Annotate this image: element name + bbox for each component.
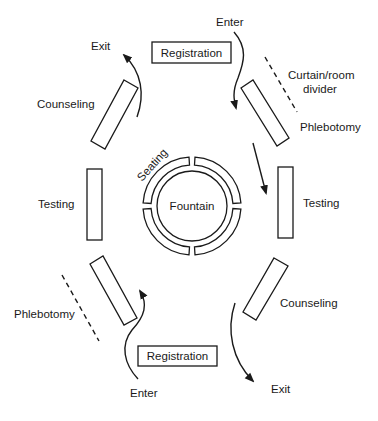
registration-bottom-label: Registration bbox=[147, 350, 208, 362]
phlebotomy-right-box bbox=[241, 80, 289, 146]
registration-top-label: Registration bbox=[161, 47, 222, 59]
curtain-divider-right bbox=[265, 57, 297, 112]
counseling-right-label: Counseling bbox=[280, 297, 338, 309]
enter-bottom-label: Enter bbox=[130, 387, 158, 399]
clinic-flow-diagram: Registration Enter Exit Counseling Phleb… bbox=[0, 0, 378, 421]
testing-left-label: Testing bbox=[38, 198, 74, 210]
exit-bottom-arrow bbox=[231, 303, 253, 381]
flow-arrow-to-testing bbox=[253, 143, 266, 193]
divider-label-line2: divider bbox=[303, 83, 337, 95]
testing-right-box bbox=[278, 167, 293, 238]
testing-right-label: Testing bbox=[303, 197, 339, 209]
enter-top-arrow bbox=[234, 32, 244, 108]
counseling-left-label: Counseling bbox=[37, 98, 95, 110]
testing-left-box bbox=[87, 169, 102, 240]
seating-segment bbox=[195, 157, 241, 203]
exit-top-arrow bbox=[124, 55, 141, 117]
phlebotomy-left-label: Phlebotomy bbox=[14, 308, 75, 320]
phlebotomy-left-box bbox=[90, 256, 137, 325]
counseling-left-box bbox=[91, 80, 138, 149]
seating-segment bbox=[195, 209, 241, 255]
exit-top-label: Exit bbox=[91, 40, 111, 52]
seating-segment bbox=[143, 209, 189, 255]
phlebotomy-right-label: Phlebotomy bbox=[300, 121, 361, 133]
counseling-right-box bbox=[243, 258, 288, 320]
divider-label-line1: Curtain/room bbox=[288, 69, 354, 81]
exit-bottom-label: Exit bbox=[271, 383, 291, 395]
fountain-label: Fountain bbox=[170, 200, 215, 212]
enter-top-label: Enter bbox=[216, 16, 244, 28]
